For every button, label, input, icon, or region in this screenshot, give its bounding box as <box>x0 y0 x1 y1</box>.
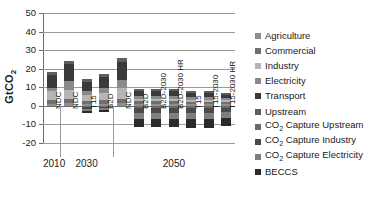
group-separator <box>60 106 61 157</box>
y-axis-tick-label: -20 <box>6 138 36 148</box>
bar-category-label: B2D <box>142 93 150 109</box>
y-axis-tick-label: 0 <box>6 101 36 111</box>
bar-category-label: T15 <box>195 95 203 109</box>
bar-segment <box>47 88 57 90</box>
legend-item[interactable]: Industry <box>255 58 367 73</box>
legend-label: Commercial <box>265 46 316 56</box>
bar-category-label: T15 <box>90 95 98 109</box>
bar-segment <box>99 110 109 112</box>
legend-item[interactable]: CO2 Capture Upstream <box>255 119 367 134</box>
bar-segment <box>117 80 127 89</box>
bar-column[interactable] <box>64 13 74 143</box>
bar-column[interactable] <box>99 13 109 143</box>
x-axis-group-label: 2010 <box>43 159 60 169</box>
bar-segment <box>186 91 196 93</box>
bar-category-label: T15-2030 HR <box>229 61 237 109</box>
legend-label: CO2 Capture Upstream <box>265 120 363 134</box>
bar-segment <box>47 75 57 88</box>
y-axis-tick-label: 50 <box>6 8 36 18</box>
bar-column[interactable] <box>134 13 144 143</box>
legend-item[interactable]: Electricity <box>255 74 367 89</box>
bar-column[interactable] <box>82 13 92 143</box>
bar-category-label: T15-2030 <box>212 75 220 109</box>
bar-segment <box>169 119 179 128</box>
legend-item[interactable]: Agriculture <box>255 28 367 43</box>
y-axis-tick-label: 10 <box>6 82 36 92</box>
legend-swatch-icon <box>255 78 261 84</box>
legend-item[interactable]: CO2 Capture Electricity <box>255 150 367 165</box>
bar-column[interactable] <box>117 13 127 143</box>
plot-area: 50403020100-10-20 <box>43 13 235 143</box>
legend-label: Electricity <box>265 76 306 86</box>
y-axis-tick-label: 30 <box>6 45 36 55</box>
legend-label: Agriculture <box>265 31 310 41</box>
bar-segment <box>134 119 144 128</box>
y-axis-tick-label: -10 <box>6 119 36 129</box>
legend-swatch-icon <box>255 33 261 39</box>
bar-series-container <box>43 13 235 143</box>
bar-segment <box>47 72 57 76</box>
bar-segment <box>64 81 74 89</box>
bar-category-label: B2D-2030 HR <box>177 59 185 109</box>
bar-category-label: NDC <box>55 92 63 109</box>
legend-swatch-icon <box>255 124 261 130</box>
legend-item[interactable]: Upstream <box>255 104 367 119</box>
bar-segment <box>99 77 109 88</box>
legend-item[interactable]: Transport <box>255 89 367 104</box>
legend-label: Upstream <box>265 107 306 117</box>
legend-label: BECCS <box>265 167 298 177</box>
legend-swatch-icon <box>255 169 261 175</box>
bar-segment <box>82 82 92 91</box>
legend-swatch-icon <box>255 48 261 54</box>
legend: AgricultureCommercialIndustryElectricity… <box>255 28 367 180</box>
legend-item[interactable]: CO2 Capture Industry <box>255 134 367 149</box>
group-separator <box>113 106 114 157</box>
legend-swatch-icon <box>255 109 261 115</box>
legend-swatch-icon <box>255 154 261 160</box>
bar-segment <box>99 74 109 77</box>
bar-segment <box>151 119 161 128</box>
bar-segment <box>64 61 74 65</box>
bar-category-label: NDC <box>125 92 133 109</box>
bar-category-label: NDC <box>72 92 80 109</box>
bar-segment <box>117 58 127 62</box>
bar-segment <box>64 64 74 81</box>
y-axis-tick-label: 20 <box>6 64 36 74</box>
x-axis-group-label: 2050 <box>113 159 235 169</box>
emissions-stacked-bar-chart: GtCO2 50403020100-10-20 NDCNDCT15B2DNDCB… <box>0 0 369 223</box>
bar-segment <box>204 119 214 128</box>
legend-swatch-icon <box>255 63 261 69</box>
bar-segment <box>221 118 231 126</box>
legend-label: Industry <box>265 61 299 71</box>
legend-swatch-icon <box>255 93 261 99</box>
legend-swatch-icon <box>255 139 261 145</box>
x-axis-baseline <box>43 143 235 144</box>
bar-column[interactable] <box>186 13 196 143</box>
bar-segment <box>186 119 196 128</box>
bar-column[interactable] <box>47 13 57 143</box>
bar-segment <box>117 62 127 80</box>
legend-item[interactable]: Commercial <box>255 43 367 58</box>
x-axis-group-label: 2030 <box>60 159 112 169</box>
legend-label: CO2 Capture Electricity <box>265 150 363 164</box>
bar-category-label: B2D <box>107 93 115 109</box>
bar-segment <box>82 79 92 82</box>
bar-category-label: B2D-2030 <box>160 73 168 109</box>
bar-segment <box>82 111 92 113</box>
bar-segment <box>134 89 144 91</box>
y-axis-tick-label: 40 <box>6 27 36 37</box>
legend-label: Transport <box>265 91 305 101</box>
legend-item[interactable]: BECCS <box>255 165 367 180</box>
legend-label: CO2 Capture Industry <box>265 135 356 149</box>
